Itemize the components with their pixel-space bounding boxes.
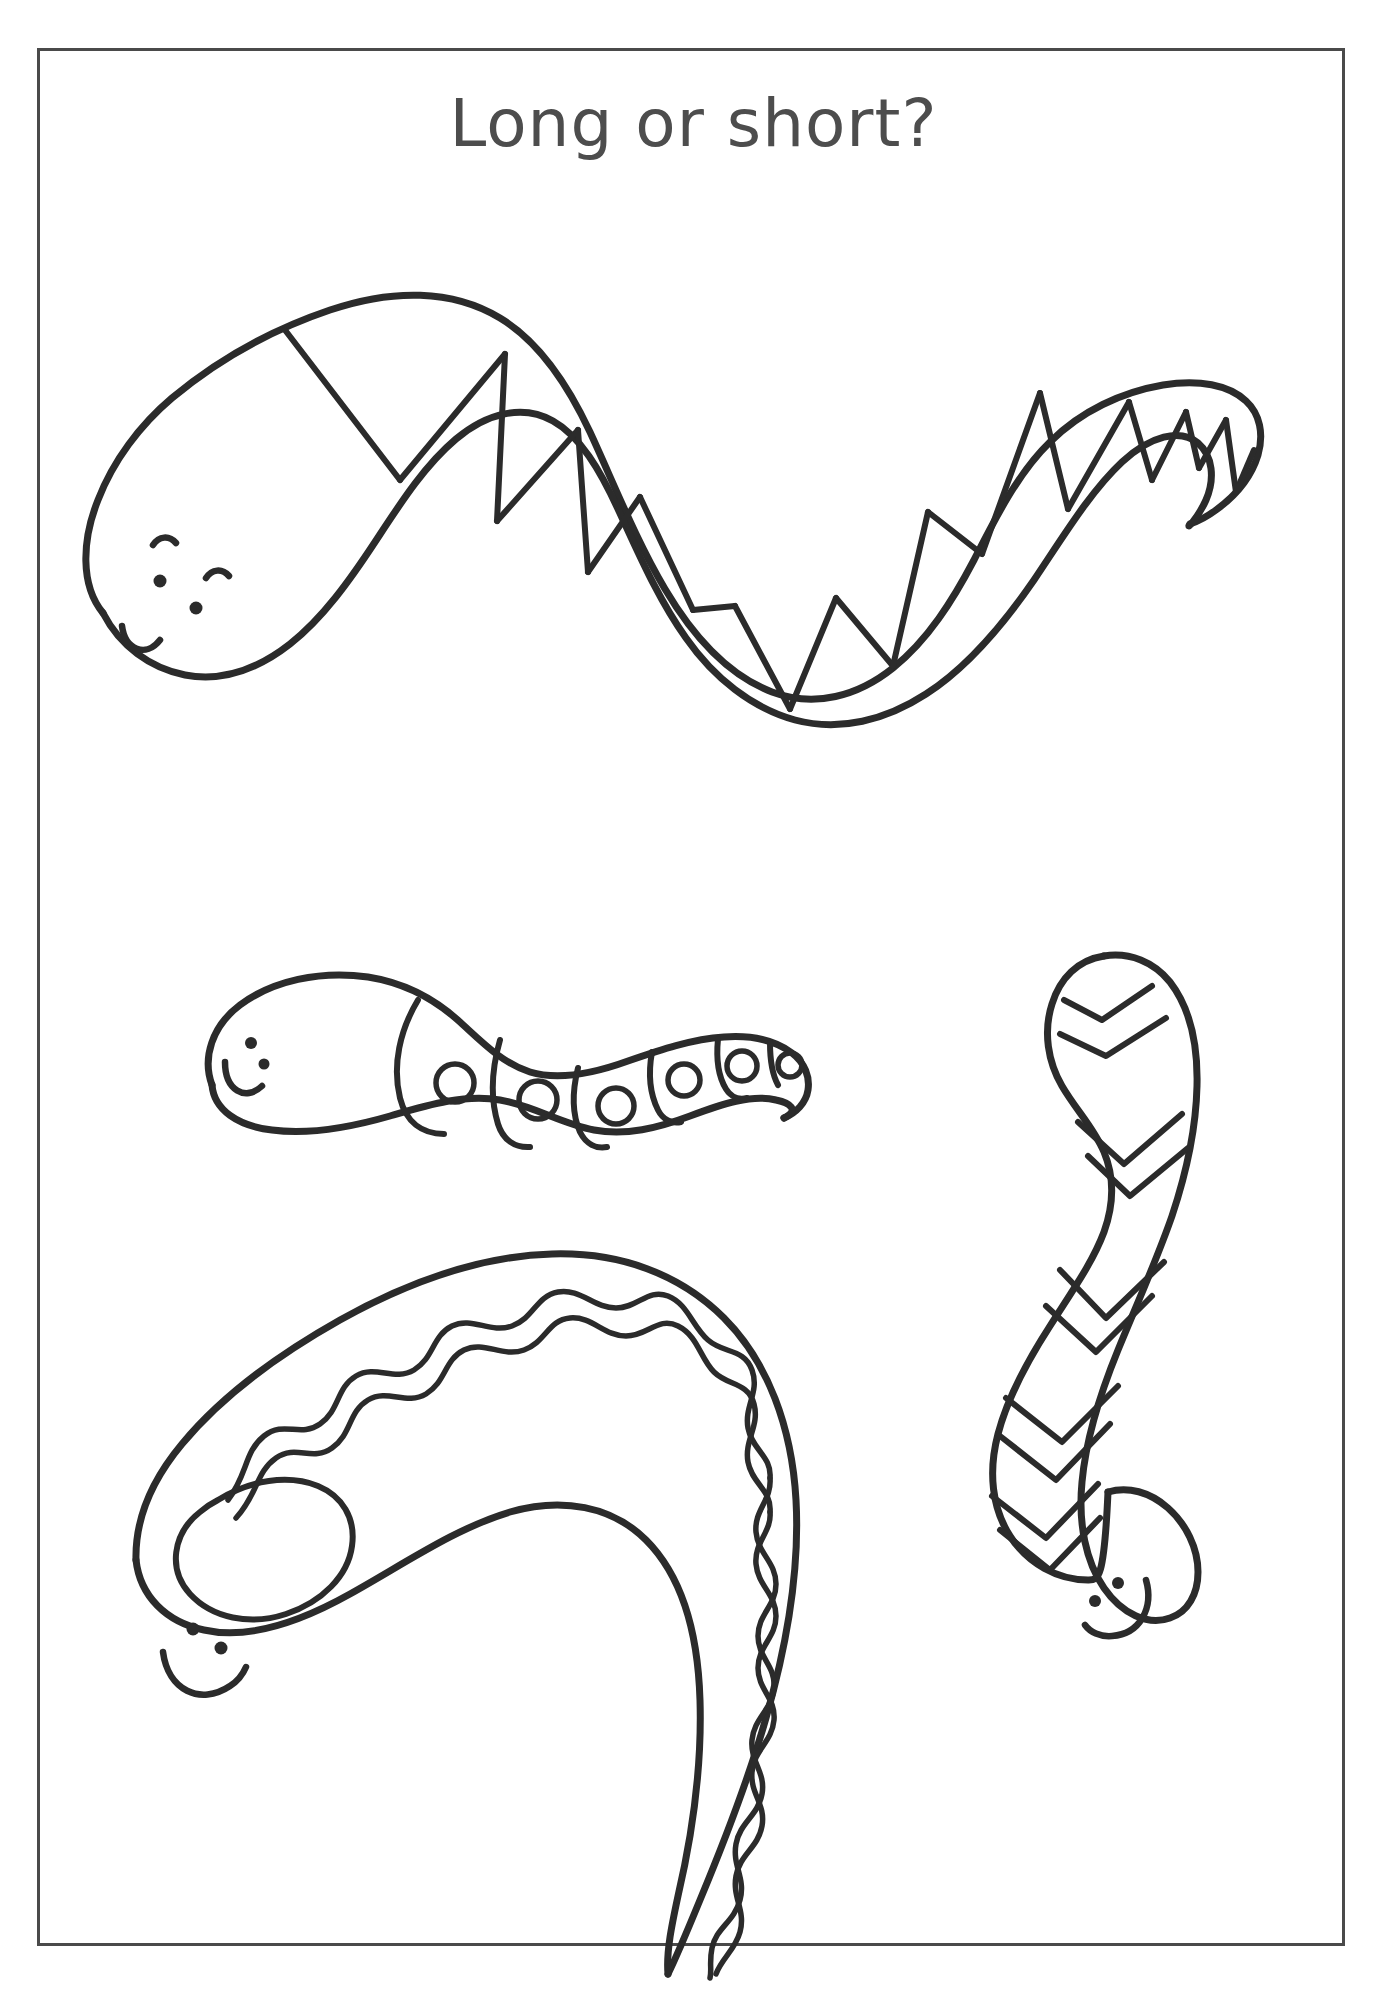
worksheet-page: Long or short? bbox=[0, 0, 1387, 1995]
page-border-frame bbox=[37, 48, 1345, 1946]
page-title: Long or short? bbox=[0, 85, 1387, 162]
